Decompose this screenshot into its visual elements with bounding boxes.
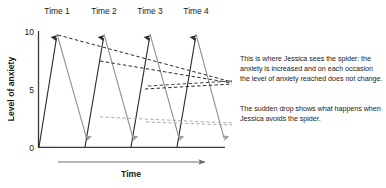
x-axis-title: Time xyxy=(121,169,141,179)
annotation-avoidance-drop: The sudden drop shows what happens when … xyxy=(240,104,383,124)
figure-page: Time 1 Time 2 Time 3 Time 4 0 5 10 Level… xyxy=(0,0,386,188)
peak-envelope-line-1 xyxy=(58,35,232,82)
peak-envelope-line-3 xyxy=(145,84,232,89)
period-label-time-2: Time 2 xyxy=(91,6,117,16)
trough-envelope-lines xyxy=(100,117,232,125)
annotation-spider-exposure: This is where Jessica sees the spider: t… xyxy=(240,54,383,85)
trough-envelope-line-1 xyxy=(100,117,232,123)
axes xyxy=(38,31,225,148)
rise-line-1 xyxy=(39,38,57,147)
rise-line-4 xyxy=(177,38,196,147)
drop-line-1 xyxy=(57,34,87,138)
anxiety-graph-svg: Time 1 Time 2 Time 3 Time 4 0 5 10 Level… xyxy=(0,0,386,188)
y-axis-ticks: 0 5 10 xyxy=(24,27,34,153)
rise-line-3 xyxy=(131,38,150,147)
rise-line-2 xyxy=(85,38,104,147)
period-label-time-4: Time 4 xyxy=(183,6,209,16)
drop-line-2 xyxy=(104,34,133,138)
period-label-time-1: Time 1 xyxy=(44,6,70,16)
period-label-time-3: Time 3 xyxy=(137,6,163,16)
y-tick-10: 10 xyxy=(24,27,34,37)
y-tick-5: 5 xyxy=(29,85,34,95)
y-axis-title: Level of anxiety xyxy=(6,57,16,122)
peak-envelope-line-4 xyxy=(148,81,232,86)
y-tick-0: 0 xyxy=(29,143,34,153)
period-labels: Time 1 Time 2 Time 3 Time 4 xyxy=(44,6,209,16)
